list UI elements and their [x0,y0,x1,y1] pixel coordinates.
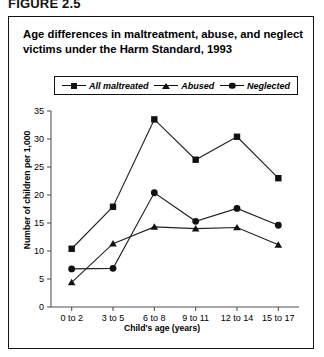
x-tick-label: 15 to 17 [262,313,295,323]
circle-marker-icon [275,222,282,229]
y-tick-label: 10 [34,246,44,256]
plot-area: 051015202530350 to 23 to 56 to 89 to 111… [9,17,315,350]
series-line-circle [72,193,279,269]
y-tick-label: 5 [39,274,44,284]
triangle-marker-icon [275,241,283,247]
x-tick-label: 3 to 5 [102,313,125,323]
y-axis-label: Number of children per 1,000 [22,130,32,250]
circle-marker-icon [151,189,158,196]
circle-marker-icon [234,205,241,212]
figure-number: FIGURE 2.5 [8,0,81,11]
y-tick-label: 30 [34,134,44,144]
y-tick-label: 15 [34,218,44,228]
y-tick-label: 0 [39,302,44,312]
square-marker-icon [151,116,157,122]
square-marker-icon [110,204,116,210]
line-chart-svg: 051015202530350 to 23 to 56 to 89 to 111… [9,17,315,350]
series-line-triangle [72,227,279,282]
y-tick-label: 25 [34,162,44,172]
x-tick-label: 0 to 2 [60,313,83,323]
y-tick-label: 35 [34,106,44,116]
circle-marker-icon [68,266,75,273]
circle-marker-icon [192,218,199,225]
x-tick-label: 9 to 11 [182,313,209,323]
square-marker-icon [234,134,240,140]
figure-box: Age differences in maltreatment, abuse, … [8,16,314,349]
square-marker-icon [275,175,281,181]
square-marker-icon [68,246,74,252]
triangle-marker-icon [109,240,117,246]
x-axis-label: Child's age (years) [9,323,315,333]
series-line-square [72,119,279,248]
y-tick-label: 20 [34,190,44,200]
x-tick-label: 12 to 14 [221,313,254,323]
circle-marker-icon [110,265,117,272]
x-tick-label: 6 to 8 [143,313,166,323]
square-marker-icon [192,157,198,163]
